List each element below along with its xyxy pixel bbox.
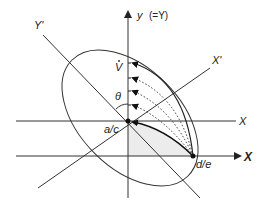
- y-prime-axis: [43, 35, 200, 198]
- shaded-region: [128, 121, 193, 156]
- y-axis-eq-label: (=Y): [149, 10, 168, 21]
- rotated-ellipse: [37, 25, 224, 205]
- x-prime-axis: [38, 68, 210, 188]
- x-lower-label: X: [243, 150, 253, 164]
- v-dot-marker: [118, 60, 120, 62]
- v-dot-label: V: [115, 61, 124, 73]
- point-ac: [126, 119, 131, 124]
- y-prime-label: Y': [34, 19, 44, 31]
- point-de-label: d/e: [196, 158, 211, 170]
- ellipse-transformation-diagram: y (=Y) Y' X' X X V θ a/c d/e: [0, 0, 259, 205]
- theta-angle-arc: [116, 104, 128, 109]
- y-axis-label: y: [136, 9, 144, 21]
- x-prime-label: X': [211, 54, 222, 66]
- theta-label: θ: [115, 90, 121, 102]
- x-upper-label: X: [238, 115, 247, 127]
- point-de: [191, 154, 196, 159]
- origin-label: a/c: [104, 123, 119, 135]
